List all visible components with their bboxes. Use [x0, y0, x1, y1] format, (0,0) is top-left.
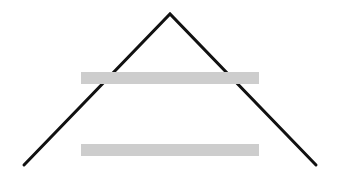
diagram-canvas [0, 0, 337, 178]
peak-line [24, 14, 316, 165]
lower-bar [81, 144, 259, 156]
peak-diagram [0, 0, 337, 178]
upper-bar [81, 72, 259, 84]
